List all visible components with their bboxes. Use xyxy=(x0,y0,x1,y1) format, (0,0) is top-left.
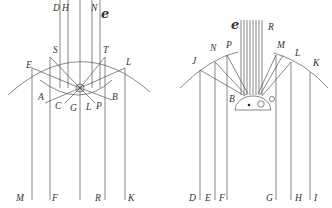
label-J: J xyxy=(192,56,197,66)
diagram-stage: D H N e S T E L A B C G L P M F R K xyxy=(0,0,332,208)
label-B: B xyxy=(229,94,235,104)
label-M: M xyxy=(276,40,286,50)
label-script-e: e xyxy=(231,17,239,32)
radial-P xyxy=(80,88,112,100)
label-L: L xyxy=(294,48,300,58)
label-G: G xyxy=(266,193,273,203)
label-A: A xyxy=(37,92,44,102)
small-circle-icon xyxy=(258,101,264,107)
label-M: M xyxy=(15,193,25,203)
label-H: H xyxy=(61,3,70,13)
label-K: K xyxy=(312,58,320,68)
right-outer-arc-right xyxy=(274,53,328,88)
label-K: K xyxy=(127,193,135,203)
label-R: R xyxy=(94,193,101,203)
label-F: F xyxy=(218,193,225,203)
radial-L xyxy=(80,68,125,88)
dot-icon xyxy=(248,104,251,107)
label-H: H xyxy=(294,193,303,203)
label-F: F xyxy=(51,193,58,203)
optics-diagram: D H N e S T E L A B C G L P M F R K xyxy=(0,0,332,208)
label-script-e: e xyxy=(101,6,109,21)
label-L2: L xyxy=(85,102,91,112)
label-E: E xyxy=(25,60,32,70)
semicircle-object xyxy=(235,96,271,110)
label-P: P xyxy=(95,101,102,111)
label-R: R xyxy=(267,22,274,32)
radial-E xyxy=(32,68,80,88)
label-E: E xyxy=(204,193,211,203)
label-P: P xyxy=(225,40,232,50)
label-D: D xyxy=(188,193,196,203)
label-L: L xyxy=(125,57,131,67)
right-outer-arc-left xyxy=(180,52,238,88)
right-figure: e R J N P M L K B D E F G H I xyxy=(180,17,328,203)
label-B: B xyxy=(112,92,118,102)
label-I: I xyxy=(313,193,318,203)
label-D: D xyxy=(52,3,60,13)
label-T: T xyxy=(103,45,109,55)
label-G: G xyxy=(70,103,77,113)
label-C: C xyxy=(55,101,62,111)
label-N: N xyxy=(90,3,98,13)
left-figure: D H N e S T E L A B C G L P M F R K xyxy=(8,0,150,203)
label-S: S xyxy=(53,45,58,55)
small-circle-right-icon xyxy=(269,96,274,101)
label-N: N xyxy=(209,43,217,53)
